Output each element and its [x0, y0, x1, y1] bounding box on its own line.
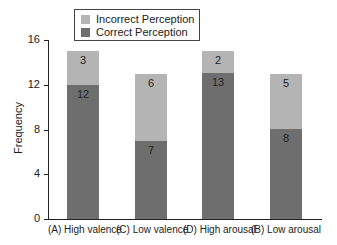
bar-segment-incorrect: 5 — [270, 74, 302, 129]
bar-high-arousal: 2 13 — [202, 51, 234, 219]
y-tick-label: 8 — [10, 123, 40, 135]
bar-segment-incorrect: 3 — [67, 51, 99, 85]
bar-value: 6 — [148, 77, 154, 141]
bar-value: 7 — [148, 144, 154, 219]
bar-segment-correct: 7 — [135, 141, 167, 219]
x-tick-label: (A) High valence — [48, 224, 118, 235]
bar-segment-correct: 12 — [67, 85, 99, 219]
bar-low-arousal: 5 8 — [270, 74, 302, 219]
y-tick-label: 16 — [10, 33, 40, 45]
y-tick — [44, 85, 48, 86]
y-tick — [44, 174, 48, 175]
bar-segment-incorrect: 2 — [202, 51, 234, 73]
bar-value: 13 — [212, 76, 224, 219]
y-tick — [44, 130, 48, 131]
bar-segment-correct: 13 — [202, 73, 234, 219]
y-tick-label: 0 — [10, 212, 40, 224]
legend-label-incorrect: Incorrect Perception — [96, 13, 194, 25]
y-tick — [44, 40, 48, 41]
bar-low-valence: 6 7 — [135, 74, 167, 219]
x-tick-label: (D) High arousal — [183, 224, 253, 235]
bar-value: 8 — [283, 132, 289, 219]
y-axis — [48, 40, 49, 220]
x-tick-label: (B) Low arousal — [251, 224, 321, 235]
x-tick-label: (C) Low valence — [116, 224, 186, 235]
legend-swatch-correct — [81, 28, 90, 37]
bar-segment-correct: 8 — [270, 129, 302, 219]
legend-swatch-incorrect — [81, 15, 90, 24]
bar-segment-incorrect: 6 — [135, 74, 167, 141]
bar-value: 2 — [215, 54, 221, 73]
y-tick-label: 4 — [10, 167, 40, 179]
x-axis — [48, 219, 322, 220]
legend-label-correct: Correct Perception — [96, 26, 188, 38]
bar-value: 5 — [283, 77, 289, 129]
legend-item-incorrect: Incorrect Perception — [81, 13, 194, 25]
bar-value: 12 — [77, 88, 89, 219]
bar-high-valence: 3 12 — [67, 51, 99, 219]
y-tick-label: 12 — [10, 78, 40, 90]
bar-value: 3 — [80, 54, 86, 85]
legend-item-correct: Correct Perception — [81, 26, 188, 38]
y-tick — [44, 219, 48, 220]
legend: Incorrect Perception Correct Perception — [74, 9, 200, 41]
